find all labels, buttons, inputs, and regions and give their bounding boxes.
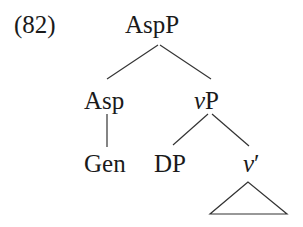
- node-vp-italic: v: [194, 87, 205, 114]
- triangle-icon: [210, 182, 287, 214]
- node-vbar-prime: ′: [254, 150, 259, 177]
- node-asp-p: AspP: [125, 12, 179, 37]
- node-vp-rest: P: [205, 87, 219, 114]
- edge-vp-to-dp: [173, 114, 208, 145]
- edge-asp-p-to-vp: [160, 45, 211, 79]
- example-number: (82): [14, 12, 56, 37]
- node-dp: DP: [154, 151, 186, 176]
- edge-vp-to-vbar: [212, 114, 249, 146]
- node-asp: Asp: [84, 88, 124, 113]
- node-vp: vP: [194, 88, 219, 113]
- node-vbar-italic: v: [243, 150, 254, 177]
- node-v-bar: v′: [243, 151, 260, 176]
- node-gen: Gen: [84, 151, 126, 176]
- edge-asp-p-to-asp: [107, 45, 158, 79]
